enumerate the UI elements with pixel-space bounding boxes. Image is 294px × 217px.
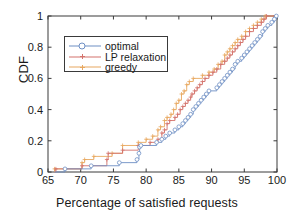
x-tick-label-75: 75	[107, 174, 119, 186]
cdf-chart-figure: CDF Percentage of satisfied requests 657…	[0, 0, 294, 217]
legend-marker-plus-icon	[80, 65, 85, 70]
x-axis-label: Percentage of satisfied requests	[0, 196, 294, 210]
y-tick-label-1: 1	[8, 10, 43, 22]
x-tick-label-70: 70	[75, 174, 87, 186]
legend-marker-plus-icon	[80, 54, 85, 59]
y-tick-label-0: 0	[8, 166, 43, 178]
legend-line-swatch	[69, 56, 101, 57]
legend-marker-circle-icon	[79, 43, 86, 50]
y-tick-label-0p8: 0.8	[8, 41, 43, 53]
y-tick-label-0p2: 0.2	[8, 135, 43, 147]
y-tick-label-0p4: 0.4	[8, 104, 43, 116]
legend: optimalLP relaxationgreedy	[64, 36, 168, 72]
legend-label: greedy	[105, 61, 137, 73]
x-tick-label-100: 100	[268, 174, 286, 186]
x-tick-label-90: 90	[205, 174, 217, 186]
legend-item-greedy: greedy	[65, 62, 167, 72]
legend-item-lp-relaxation: LP relaxation	[65, 52, 167, 62]
x-tick-label-80: 80	[140, 174, 152, 186]
x-tick-label-85: 85	[173, 174, 185, 186]
legend-line-swatch	[69, 67, 101, 68]
legend-item-optimal: optimal	[65, 41, 167, 51]
x-tick-label-95: 95	[238, 174, 250, 186]
y-tick-label-0p6: 0.6	[8, 72, 43, 84]
x-tick-label-65: 65	[42, 174, 54, 186]
